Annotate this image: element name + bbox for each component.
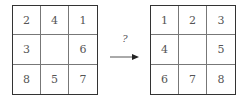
right-arrow-icon: [110, 52, 140, 62]
start-cell-8: 5: [41, 65, 69, 94]
transition-label: ?: [118, 33, 132, 44]
start-state-grid: 2 4 1 3 6 8 5 7: [12, 5, 98, 95]
goal-cell-1: 1: [151, 6, 179, 35]
goal-cell-7: 6: [151, 65, 179, 94]
start-cell-2: 4: [41, 6, 69, 35]
start-cell-6: 6: [69, 35, 97, 64]
start-cell-4: 3: [13, 35, 41, 64]
goal-cell-6: 5: [207, 35, 235, 64]
goal-cell-3: 3: [207, 6, 235, 35]
goal-cell-2: 2: [179, 6, 207, 35]
goal-state-grid: 1 2 3 4 5 6 7 8: [150, 5, 236, 95]
start-cell-9: 7: [69, 65, 97, 94]
start-cell-3: 1: [69, 6, 97, 35]
start-cell-blank: [41, 35, 69, 64]
start-cell-1: 2: [13, 6, 41, 35]
goal-cell-blank: [179, 35, 207, 64]
start-cell-7: 8: [13, 65, 41, 94]
goal-cell-9: 8: [207, 65, 235, 94]
goal-cell-8: 7: [179, 65, 207, 94]
goal-cell-4: 4: [151, 35, 179, 64]
